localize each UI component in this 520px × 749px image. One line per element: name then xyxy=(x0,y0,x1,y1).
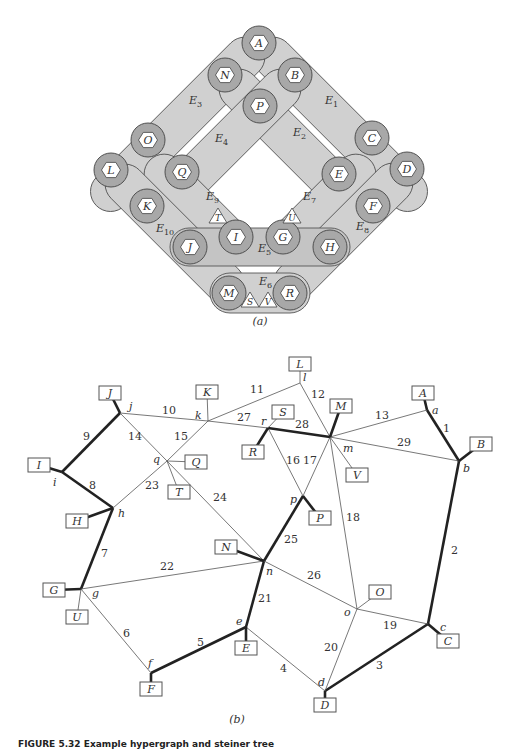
junction-label-e: e xyxy=(236,615,243,628)
edge-weight-16: 16 xyxy=(286,454,300,467)
edge-weight-26: 26 xyxy=(307,569,321,582)
edge-1 xyxy=(427,410,459,461)
edge-weight-5: 5 xyxy=(197,636,204,649)
edge-weight-11: 11 xyxy=(250,383,264,396)
edge-3 xyxy=(325,624,428,691)
terminal-label: J xyxy=(106,387,113,400)
edge-weight-13: 13 xyxy=(375,409,389,422)
terminal-node-l: L xyxy=(289,357,311,371)
edge-weight-9: 9 xyxy=(83,430,90,443)
hyperedge-label-e9: E9 xyxy=(205,190,219,205)
junction-label-i: i xyxy=(53,476,57,489)
terminal-label: S xyxy=(279,406,287,419)
terminal-node-i: I xyxy=(28,458,50,472)
node-label: L xyxy=(106,164,114,177)
edge-weight-22: 22 xyxy=(160,560,174,573)
edge-weight-15: 15 xyxy=(174,430,188,443)
junction-label-p: p xyxy=(290,493,297,506)
edge-weight-28: 28 xyxy=(295,418,309,431)
edge-weight-25: 25 xyxy=(284,533,298,546)
edge-4 xyxy=(246,627,325,691)
terminal-label: I xyxy=(36,459,42,472)
terminal-node-j: J xyxy=(99,386,121,400)
terminal-node-t: T xyxy=(168,485,190,499)
terminal-label: Q xyxy=(191,456,200,469)
junction-label-k: k xyxy=(195,409,202,422)
terminal-label: G xyxy=(50,584,59,597)
junction-label-m: m xyxy=(343,442,353,455)
edge-weight-4: 4 xyxy=(280,662,287,675)
graph-edges xyxy=(62,383,459,691)
terminal-label: R xyxy=(248,446,257,459)
terminal-node-q: Q xyxy=(185,455,207,469)
edge-25 xyxy=(264,496,303,561)
edge-9 xyxy=(62,413,120,472)
junction-label-a: a xyxy=(432,404,439,417)
terminal-node-s: S xyxy=(272,405,294,419)
junction-label-g: g xyxy=(92,587,99,600)
edge-weight-8: 8 xyxy=(89,479,96,492)
edge-5 xyxy=(151,627,246,673)
edge-weight-labels: 1234567891011121314151617181920212223242… xyxy=(83,383,458,675)
terminal-label: U xyxy=(72,611,82,624)
junction-label-r: r xyxy=(261,415,267,428)
node-label: O xyxy=(143,134,152,147)
junction-label-f: f xyxy=(147,657,154,670)
terminal-label: K xyxy=(202,386,212,399)
terminal-label: P xyxy=(315,512,324,525)
node-label: G xyxy=(279,231,288,244)
terminal-node-u: U xyxy=(66,610,88,624)
terminal-node-v: V xyxy=(346,468,368,482)
steiner-graph-figure: 1234567891011121314151617181920212223242… xyxy=(28,357,492,726)
node-label: Q xyxy=(177,166,186,179)
terminal-node-r: R xyxy=(242,445,264,459)
node-label: J xyxy=(186,241,193,254)
terminal-nodes: ABCDEFGHIJKLMNOPQRSTUV xyxy=(28,357,492,712)
terminal-node-o: O xyxy=(369,585,391,599)
node-label: A xyxy=(254,37,263,50)
junction-label-b: b xyxy=(463,462,470,475)
edge-weight-24: 24 xyxy=(213,491,227,504)
terminal-links xyxy=(39,364,481,705)
edge-weight-20: 20 xyxy=(324,641,338,654)
junction-label-j: j xyxy=(126,400,133,413)
node-label: U xyxy=(288,213,296,223)
edge-8 xyxy=(62,472,113,508)
terminal-node-c: C xyxy=(437,634,459,648)
terminal-node-h: H xyxy=(66,514,88,528)
junction-label-l: l xyxy=(303,371,307,384)
edge-6 xyxy=(81,589,151,673)
terminal-label: N xyxy=(220,541,231,554)
terminal-label: A xyxy=(418,387,427,400)
node-label: D xyxy=(402,163,412,176)
node-label: B xyxy=(290,69,299,82)
edge-weight-23: 23 xyxy=(145,479,159,492)
junction-label-c: c xyxy=(440,621,446,634)
junction-label-h: h xyxy=(118,507,125,520)
edge-weight-1: 1 xyxy=(443,422,450,435)
node-label: K xyxy=(142,200,152,213)
edge-weight-14: 14 xyxy=(128,430,142,443)
figure-a-caption: (a) xyxy=(252,315,267,328)
edge-weight-29: 29 xyxy=(397,436,411,449)
edge-weight-19: 19 xyxy=(383,619,397,632)
terminal-label: F xyxy=(146,683,155,696)
terminal-node-e: E xyxy=(235,641,257,655)
terminal-label: O xyxy=(375,586,384,599)
edge-2 xyxy=(428,461,459,624)
terminal-node-g: G xyxy=(43,583,65,597)
edge-weight-17: 17 xyxy=(303,454,317,467)
node-label: M xyxy=(222,287,235,300)
terminal-node-d: D xyxy=(314,698,336,712)
edge-weight-10: 10 xyxy=(162,404,176,417)
terminal-label: M xyxy=(334,400,347,413)
hyperedge-bands xyxy=(82,29,436,313)
node-label: N xyxy=(219,69,230,82)
figure-canvas: ANBPOCLQEDKFJIGHMR TUSV E1E2E3E4E5E6E7E8… xyxy=(0,0,520,749)
node-label: S xyxy=(247,297,253,307)
node-label: H xyxy=(324,241,335,254)
terminal-label: E xyxy=(241,642,250,655)
node-label: F xyxy=(368,200,377,213)
terminal-label: H xyxy=(71,515,82,528)
edge-weight-18: 18 xyxy=(346,511,360,524)
